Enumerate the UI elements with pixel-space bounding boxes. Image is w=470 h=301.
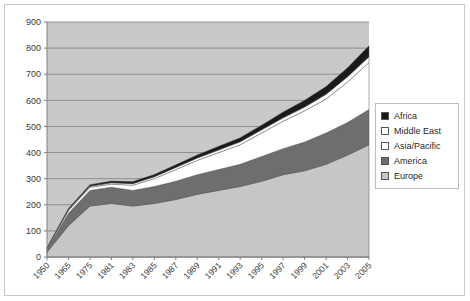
svg-text:300: 300 xyxy=(26,174,41,184)
svg-text:1997: 1997 xyxy=(267,260,288,281)
legend-item-america: America xyxy=(381,154,453,168)
svg-text:700: 700 xyxy=(26,69,41,79)
legend-item-europe: Europe xyxy=(381,169,453,183)
legend-swatch-asia-pacific xyxy=(381,142,389,150)
svg-text:600: 600 xyxy=(26,96,41,106)
svg-text:2003: 2003 xyxy=(331,260,352,281)
svg-text:1981: 1981 xyxy=(95,260,116,281)
svg-text:500: 500 xyxy=(26,122,41,132)
legend-item-middle-east: Middle East xyxy=(381,124,453,138)
svg-text:400: 400 xyxy=(26,148,41,158)
svg-text:2001: 2001 xyxy=(310,260,331,281)
svg-text:100: 100 xyxy=(26,226,41,236)
svg-text:1999: 1999 xyxy=(289,260,310,281)
svg-text:1975: 1975 xyxy=(74,260,95,281)
svg-text:1983: 1983 xyxy=(117,260,138,281)
legend-label-middle-east: Middle East xyxy=(394,126,441,136)
svg-text:0: 0 xyxy=(36,252,41,262)
legend-label-asia-pacific: Asia/Pacific xyxy=(394,141,441,151)
legend-label-africa: Africa xyxy=(394,111,417,121)
svg-text:1985: 1985 xyxy=(138,260,159,281)
svg-text:1987: 1987 xyxy=(160,260,181,281)
svg-text:1965: 1965 xyxy=(52,260,73,281)
legend-swatch-africa xyxy=(381,112,389,120)
chart-legend: Africa Middle East Asia/Pacific America … xyxy=(375,103,459,189)
legend-item-africa: Africa xyxy=(381,109,453,123)
svg-text:900: 900 xyxy=(26,17,41,27)
legend-swatch-europe xyxy=(381,172,389,180)
svg-text:1950: 1950 xyxy=(31,260,52,281)
svg-text:1993: 1993 xyxy=(224,260,245,281)
legend-item-asia-pacific: Asia/Pacific xyxy=(381,139,453,153)
svg-text:2005: 2005 xyxy=(353,260,374,281)
svg-text:800: 800 xyxy=(26,43,41,53)
svg-text:200: 200 xyxy=(26,200,41,210)
legend-label-america: America xyxy=(394,156,427,166)
legend-swatch-middle-east xyxy=(381,127,389,135)
legend-swatch-america xyxy=(381,157,389,165)
legend-label-europe: Europe xyxy=(394,171,423,181)
chart-frame: 0100200300400500600700800900195019651975… xyxy=(4,4,465,296)
svg-text:1989: 1989 xyxy=(181,260,202,281)
svg-text:1991: 1991 xyxy=(203,260,224,281)
svg-text:1995: 1995 xyxy=(246,260,267,281)
